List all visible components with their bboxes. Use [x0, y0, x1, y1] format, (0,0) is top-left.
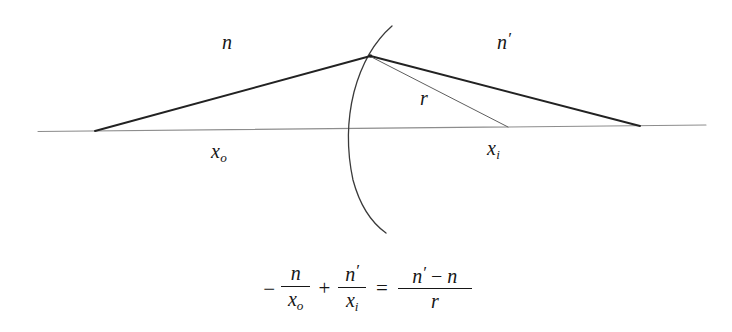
equation-leading-minus: − [260, 277, 276, 302]
fraction-n-over-xo: n xo [281, 263, 310, 313]
incident-ray-line [95, 56, 371, 131]
medium-index-right-label: n′ [497, 30, 511, 52]
rhs-n-second: n [447, 265, 457, 287]
image-distance-base: x [487, 137, 496, 159]
equation-row: − n xo + n′ xi = n′−n r [260, 262, 472, 314]
rhs-inner-minus: − [426, 265, 447, 287]
vertex-point-marker [369, 54, 373, 58]
xi-base: x [346, 289, 355, 311]
medium-index-right-base: n [497, 31, 507, 53]
fraction-n-over-xo-numerator: n [284, 263, 308, 286]
fraction-nprime-over-xi-denominator: xi [339, 288, 366, 314]
image-distance-label: xi [487, 138, 500, 161]
optical-axis-line [38, 125, 706, 132]
medium-index-right-prime-mark: ′ [507, 29, 511, 48]
xi-subscript: i [355, 299, 359, 314]
radius-label: r [420, 88, 428, 108]
nprime-num-base: n [345, 263, 355, 285]
fraction-nprime-minus-n-numerator: n′−n [405, 264, 464, 289]
fraction-nprime-over-xi: n′ xi [338, 262, 366, 314]
xo-subscript: o [297, 298, 304, 313]
equation-equals-operator: = [371, 276, 393, 301]
nprime-num-prime-mark: ′ [355, 261, 359, 280]
fraction-nprime-over-xi-numerator: n′ [338, 262, 366, 287]
object-distance-base: x [211, 140, 220, 162]
optics-figure: n n′ r xo xi − n xo + n′ xi = n′−n [0, 0, 732, 332]
radius-line [371, 57, 509, 128]
fraction-nprime-minus-n-over-r: n′−n r [398, 264, 472, 313]
rhs-nprime-base: n [412, 265, 422, 287]
fraction-nprime-minus-n-denominator: r [424, 289, 446, 312]
image-distance-subscript: i [496, 147, 500, 162]
object-distance-label: xo [211, 141, 227, 164]
refracted-ray-line [371, 56, 641, 126]
medium-index-left-label: n [222, 32, 232, 52]
object-distance-subscript: o [220, 150, 227, 165]
refraction-equation: − n xo + n′ xi = n′−n r [0, 262, 732, 314]
fraction-n-over-xo-denominator: xo [281, 287, 310, 313]
xo-base: x [288, 288, 297, 310]
equation-plus-operator: + [315, 276, 333, 301]
